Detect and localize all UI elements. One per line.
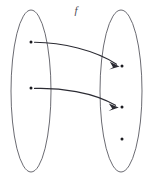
domain-element-2-dot	[30, 87, 33, 90]
codomain-element-3-dot	[121, 138, 124, 141]
domain-element-1-dot	[30, 41, 33, 44]
function-diagram-canvas: f	[0, 0, 151, 178]
function-diagram: f	[0, 0, 151, 178]
mapping-arrow-1-curve	[35, 42, 117, 64]
function-label: f	[74, 4, 79, 16]
codomain-element-2-dot	[121, 106, 124, 109]
mapping-arrow-2-curve	[35, 88, 116, 105]
domain-set-ellipse	[11, 10, 51, 172]
codomain-set-ellipse	[100, 10, 142, 172]
codomain-element-1-dot	[121, 65, 124, 68]
